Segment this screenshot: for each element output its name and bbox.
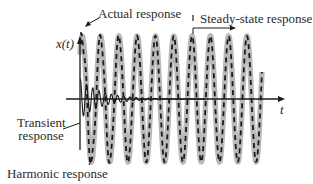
transient-response-label: Transient response [17,116,65,142]
harmonic-response-label: Harmonic response [7,167,108,180]
t-axis-label: t [280,103,284,116]
steady-state-leader [193,28,232,34]
steady-state-arrowhead [230,26,236,31]
y-axis-label: x(t) [56,37,74,50]
forced-vibration-response-diagram: Actual response Steady-state response x(… [0,0,313,184]
transient-response-label-line2: response [17,129,65,142]
response-plot [0,0,313,184]
steady-state-response-label: Steady-state response [200,12,312,25]
actual-response-label: Actual response [98,7,181,20]
actual-response-arrowhead [85,21,91,27]
